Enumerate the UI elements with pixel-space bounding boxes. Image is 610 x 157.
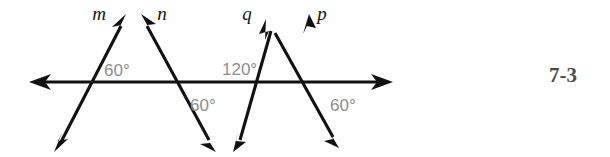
line-label-n: n	[157, 3, 167, 24]
angle-label-upper-left: 60°	[104, 61, 130, 80]
line-q-stroke	[240, 31, 271, 140]
line-label-q: q	[242, 3, 252, 24]
horizontal-transversal	[29, 74, 393, 90]
line-label-m: m	[92, 3, 106, 24]
line-m-stroke	[61, 26, 121, 142]
geometry-diagram-canvas: m n q p 60° 120° 60° 60° 7-3	[0, 0, 610, 157]
angle-label-lower-middle: 60°	[190, 96, 216, 115]
angle-label-upper-right: 120°	[222, 60, 257, 79]
geometry-figure: m n q p 60° 120° 60° 60° 7-3	[0, 0, 610, 157]
line-label-p: p	[315, 3, 327, 24]
line-p-top-arrowhead	[303, 14, 316, 34]
line-q-bottom-arrowhead	[233, 132, 246, 152]
line-q-top-arrowhead	[259, 19, 269, 40]
angle-label-lower-right: 60°	[330, 96, 356, 115]
line-p-stroke	[275, 33, 333, 137]
section-label: 7-3	[549, 63, 577, 87]
line-q	[233, 19, 271, 152]
